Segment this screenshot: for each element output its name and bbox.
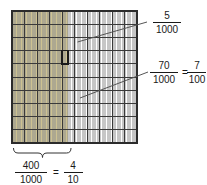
bottom-fraction-numerator: 400 [23, 160, 40, 171]
fraction-grid-figure: 5 1000 70 1000 = 7 100 400 1000 = 4 10 [0, 0, 207, 185]
thousandths-grid [12, 11, 137, 143]
bottom-fraction-equals: = [53, 167, 59, 178]
middle-fraction-equiv-denominator: 100 [189, 74, 206, 85]
middle-fraction-equiv-numerator: 7 [194, 60, 200, 71]
bottom-fraction-equiv-denominator: 10 [67, 174, 79, 185]
top-fraction-numerator: 5 [164, 10, 170, 21]
middle-fraction-denominator: 1000 [153, 74, 176, 85]
middle-fraction-numerator: 70 [158, 60, 170, 71]
bottom-fraction-equiv-numerator: 4 [70, 160, 76, 171]
bottom-fraction-denominator: 1000 [20, 174, 43, 185]
top-fraction-denominator: 1000 [156, 24, 179, 35]
diagram-canvas: 5 1000 70 1000 = 7 100 400 1000 = 4 10 [0, 0, 207, 185]
